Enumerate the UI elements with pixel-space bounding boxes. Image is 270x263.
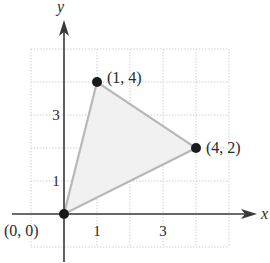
x-tick-label: 1 xyxy=(93,223,101,239)
vertex-point xyxy=(191,143,201,153)
x-tick-label: 3 xyxy=(159,223,167,239)
vertex-label: (1, 4) xyxy=(107,69,142,87)
vertex-point xyxy=(59,209,69,219)
y-tick-label: 1 xyxy=(52,173,60,189)
vertex-label: (0, 0) xyxy=(4,222,39,240)
vertex-point xyxy=(92,77,102,87)
coordinate-plane: x y 1 3 1 3 (0, 0) (1, 4) (4, 2) xyxy=(0,0,270,263)
y-axis-label: y xyxy=(55,0,65,16)
vertex-label: (4, 2) xyxy=(206,139,241,157)
x-axis-label: x xyxy=(260,205,268,222)
y-tick-label: 3 xyxy=(52,107,60,123)
